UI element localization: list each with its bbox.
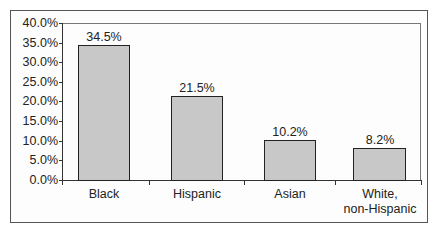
y-tick-label: 10.0%	[0, 134, 58, 148]
x-tick-mark	[149, 180, 150, 185]
x-category-label: White,	[330, 187, 430, 201]
bar-white-non-hispanic	[353, 148, 406, 181]
bar-value-label: 8.2%	[345, 133, 415, 147]
y-tick-label: 35.0%	[0, 36, 58, 50]
y-tick-mark	[59, 141, 63, 142]
x-tick-mark	[62, 180, 63, 185]
y-tick-mark	[59, 121, 63, 122]
x-tick-mark	[244, 180, 245, 185]
bar-value-label: 10.2%	[255, 125, 325, 139]
y-tick-mark	[59, 62, 63, 63]
bar-value-label: 34.5%	[69, 30, 139, 44]
bar-hispanic	[171, 96, 223, 181]
y-tick-label: 40.0%	[0, 16, 58, 30]
x-category-label: Black	[54, 187, 154, 201]
x-tick-mark	[421, 180, 422, 185]
y-tick-label: 25.0%	[0, 75, 58, 89]
y-axis	[62, 23, 63, 181]
x-category-label: Hispanic	[147, 187, 247, 201]
y-tick-mark	[59, 160, 63, 161]
bar-value-label: 21.5%	[162, 81, 232, 95]
bar-asian	[264, 140, 316, 181]
y-tick-label: 5.0%	[0, 153, 58, 167]
y-tick-mark	[59, 43, 63, 44]
y-tick-label: 0.0%	[0, 173, 58, 187]
y-tick-mark	[59, 101, 63, 102]
bar-black	[78, 45, 130, 181]
x-category-label: Asian	[240, 187, 340, 201]
y-tick-label: 15.0%	[0, 114, 58, 128]
x-category-label: non-Hispanic	[330, 202, 430, 216]
y-tick-label: 20.0%	[0, 94, 58, 108]
y-tick-mark	[59, 82, 63, 83]
y-tick-mark	[59, 23, 63, 24]
y-tick-label: 30.0%	[0, 55, 58, 69]
x-tick-mark	[335, 180, 336, 185]
